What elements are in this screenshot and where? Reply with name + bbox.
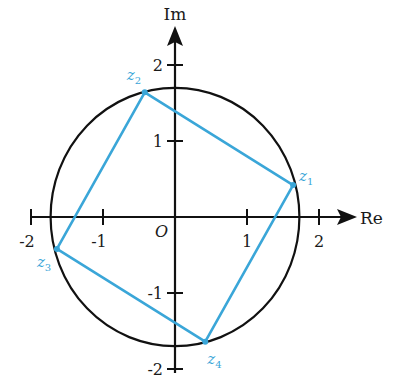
- x-tick-label: 2: [314, 232, 324, 251]
- x-tick-label: 1: [242, 232, 252, 251]
- y-tick-label: 2: [153, 56, 163, 75]
- y-tick-label: -1: [147, 284, 163, 303]
- complex-plane-diagram: -2-11221-1-2ReImO z1z2z3z4: [0, 0, 396, 382]
- axes: -2-11221-1-2ReImO: [19, 4, 383, 379]
- vertex-dot: [142, 89, 148, 95]
- point-label-z3: z3: [36, 253, 51, 273]
- x-axis-label: Re: [360, 208, 383, 228]
- vertex-dot: [54, 246, 60, 252]
- y-axis-label: Im: [164, 4, 187, 24]
- point-label-z2: z2: [126, 66, 141, 86]
- x-tick-label: -1: [91, 232, 107, 251]
- point-label-z4: z4: [206, 350, 221, 370]
- point-label-z1: z1: [298, 167, 313, 187]
- x-tick-label: -2: [19, 232, 35, 251]
- vertex-dot: [202, 339, 208, 345]
- y-tick-label: 1: [153, 132, 163, 151]
- origin-label: O: [155, 222, 168, 241]
- y-tick-label: -2: [147, 360, 163, 379]
- vertex-dot: [290, 182, 296, 188]
